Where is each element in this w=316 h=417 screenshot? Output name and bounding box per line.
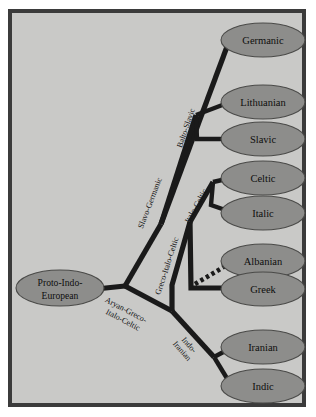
branch-lines <box>96 44 232 385</box>
node-label-indic: Indic <box>252 381 274 392</box>
node-label-italic: Italic <box>252 208 274 219</box>
branch-label-italo-celtic: Italo-Celtic <box>183 187 209 224</box>
node-label-proto-indo-european-line1: Proto-Indo- <box>38 277 83 288</box>
branch-greco-italo-celtic <box>172 222 190 311</box>
node-proto-indo-european[interactable]: Proto-Indo- European <box>16 270 104 306</box>
node-italic[interactable]: Italic <box>221 196 305 230</box>
node-germanic[interactable]: Germanic <box>221 23 305 57</box>
node-greek[interactable]: Greek <box>221 272 305 306</box>
figure-canvas: Proto-Indo- European Germanic Lithuanian… <box>0 0 316 417</box>
node-label-lithuanian: Lithuanian <box>240 97 286 108</box>
node-label-greek: Greek <box>250 284 276 295</box>
branch-label-indo-iranian: Indo- Iranian <box>171 335 198 362</box>
node-label-germanic: Germanic <box>242 35 284 46</box>
node-lithuanian[interactable]: Lithuanian <box>221 85 305 119</box>
node-label-iranian: Iranian <box>248 342 278 353</box>
node-label-albanian: Albanian <box>244 256 283 267</box>
branch-label-aryan-greco-italo-celtic: Aryan-Greco- Italo-Celtic <box>104 295 149 333</box>
branch-label-italo-celtic-text: Italo-Celtic <box>183 187 209 224</box>
node-ellipse <box>16 270 104 306</box>
branch-slavo-germanic <box>125 224 161 286</box>
branch-lithuanian <box>196 104 225 115</box>
node-celtic[interactable]: Celtic <box>221 161 305 195</box>
node-label-proto-indo-european-line2: European <box>42 290 79 301</box>
language-family-tree: Proto-Indo- European Germanic Lithuanian… <box>0 0 316 417</box>
node-slavic[interactable]: Slavic <box>221 122 305 156</box>
node-label-slavic: Slavic <box>250 134 277 145</box>
node-iranian[interactable]: Iranian <box>221 330 305 364</box>
node-indic[interactable]: Indic <box>221 369 305 403</box>
node-label-celtic: Celtic <box>250 173 275 184</box>
